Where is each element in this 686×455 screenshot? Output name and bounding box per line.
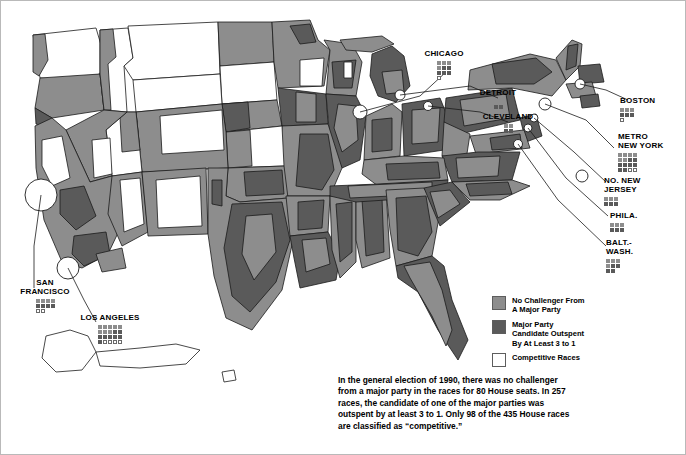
legend-item-no-challenger: No Challenger From A Major Party <box>492 296 668 315</box>
callout-los-angeles-dots <box>98 325 122 344</box>
callout-chicago[interactable]: CHICAGO <box>418 49 470 80</box>
callout-cleveland-label: CLEVELAND <box>482 112 534 121</box>
marker-atlantic-offshore <box>576 170 588 182</box>
callout-boston[interactable]: BOSTON <box>620 96 670 122</box>
callout-northern-new-jersey-label: NO. NEW JERSEY <box>604 176 658 194</box>
callout-boston-dots <box>620 108 634 122</box>
callout-los-angeles[interactable]: LOS ANGELES <box>74 313 146 344</box>
callout-san-francisco[interactable]: SAN FRANCISCO <box>12 278 78 313</box>
callout-baltimore-washington-dots <box>606 259 620 273</box>
map-legend: No Challenger From A Major Party Major P… <box>492 296 668 372</box>
legend-swatch-competitive <box>492 353 506 367</box>
callout-chicago-label: CHICAGO <box>418 49 470 58</box>
callout-northern-new-jersey[interactable]: NO. NEW JERSEY <box>604 176 658 206</box>
map-page: CHICAGO DETROIT CLEVELAND <box>0 0 686 455</box>
callout-cleveland-dots <box>504 124 513 133</box>
legend-label-no-challenger: No Challenger From A Major Party <box>512 296 585 315</box>
callout-detroit[interactable]: DETROIT <box>476 88 520 109</box>
callout-philadelphia-label: PHILA. <box>610 211 658 220</box>
callout-chicago-dots <box>437 61 451 80</box>
callout-boston-label: BOSTON <box>620 96 670 105</box>
legend-label-outspent: Major Party Candidate Outspent By At Lea… <box>512 320 584 348</box>
callout-metro-new-york-label: METRO NEW YORK <box>618 132 678 150</box>
legend-swatch-outspent <box>492 320 506 334</box>
callout-philadelphia[interactable]: PHILA. <box>610 211 658 232</box>
callout-philadelphia-dots <box>610 223 624 232</box>
callout-northern-new-jersey-dots <box>604 197 618 206</box>
callout-baltimore-washington-label: BALT.- WASH. <box>606 238 654 256</box>
callout-san-francisco-dots <box>36 299 55 313</box>
callout-detroit-dots <box>494 100 503 109</box>
callout-baltimore-washington[interactable]: BALT.- WASH. <box>606 238 654 273</box>
map-caption: In the general election of 1990, there w… <box>338 375 574 432</box>
legend-item-outspent: Major Party Candidate Outspent By At Lea… <box>492 320 668 348</box>
legend-swatch-no-challenger <box>492 296 506 310</box>
callout-san-francisco-label: SAN FRANCISCO <box>12 278 78 296</box>
callout-metro-new-york-dots <box>618 153 637 172</box>
callout-metro-new-york[interactable]: METRO NEW YORK <box>618 132 678 172</box>
legend-item-competitive: Competitive Races <box>492 353 668 367</box>
callout-cleveland[interactable]: CLEVELAND <box>482 112 534 133</box>
callout-detroit-label: DETROIT <box>476 88 520 97</box>
callout-los-angeles-label: LOS ANGELES <box>74 313 146 322</box>
legend-label-competitive: Competitive Races <box>512 353 580 362</box>
